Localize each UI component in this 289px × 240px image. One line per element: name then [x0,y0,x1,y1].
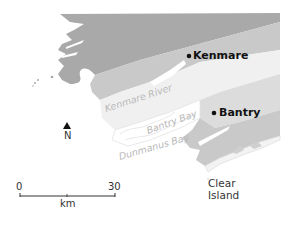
town-label-bantry: Bantry [219,106,261,119]
bantry-marker-icon [212,111,217,116]
island-label-line1: Clear [208,177,239,189]
scale-bar [20,193,115,197]
kenmare-marker-icon [187,54,192,59]
town-label-kenmare: Kenmare [193,49,248,62]
north-arrow-label: N [64,130,71,141]
scale-end-label: 30 [108,181,121,192]
scale-unit-label: km [60,198,76,209]
island-label-line2: Island [208,189,239,201]
scale-start-label: 0 [16,181,22,192]
north-arrow-icon [63,122,71,129]
island-label-clear-island: Clear Island [208,177,239,201]
